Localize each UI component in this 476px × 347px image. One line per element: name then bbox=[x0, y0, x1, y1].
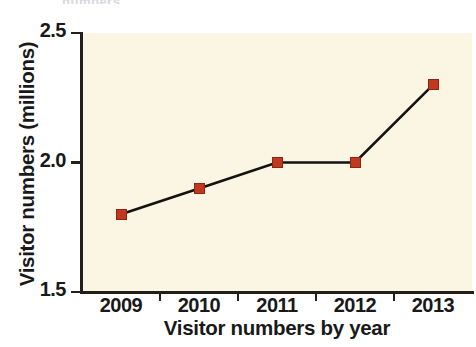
x-axis-title: Visitor numbers by year bbox=[82, 316, 472, 340]
data-point-marker bbox=[272, 157, 283, 168]
data-point-marker bbox=[350, 157, 361, 168]
line-chart-figure: numbers 1.52.02.5 20092010201120122013 V… bbox=[0, 0, 476, 347]
data-point-marker bbox=[194, 183, 205, 194]
y-axis-title: Visitor numbers (millions) bbox=[15, 29, 39, 299]
series-polyline bbox=[121, 85, 433, 215]
data-point-marker bbox=[116, 209, 127, 220]
series-line-layer bbox=[0, 0, 476, 347]
data-point-marker bbox=[428, 79, 439, 90]
